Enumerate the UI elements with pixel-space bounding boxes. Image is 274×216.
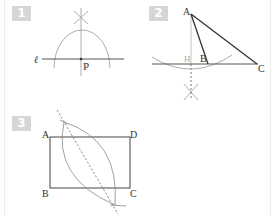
figure-3-diagram: A D B C xyxy=(0,0,274,216)
label-c3: C xyxy=(130,188,137,199)
label-a3: A xyxy=(42,129,50,140)
label-d3: D xyxy=(130,129,137,140)
label-b3: B xyxy=(42,188,49,199)
